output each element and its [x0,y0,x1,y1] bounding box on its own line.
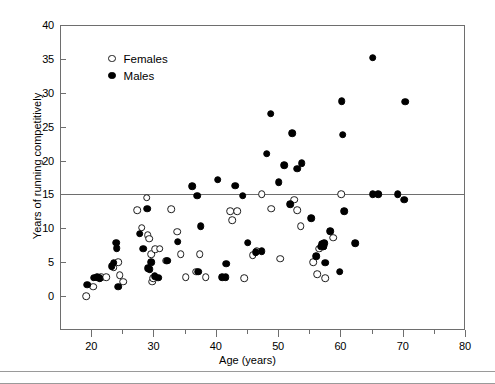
y-tick-35 [60,59,66,60]
x-tick-40 [216,330,217,337]
x-tick-minor-35 [185,330,186,334]
y-tick-0 [60,296,66,297]
y-tick-40 [60,25,66,26]
x-tick-80 [465,330,466,337]
x-tick-label-70: 70 [388,340,418,352]
legend: Females Males [108,50,168,84]
x-tick-50 [278,330,279,337]
y-tick-25 [60,127,66,128]
scatter-plot-figure: 0510152025303540 20304050607080 Females … [0,0,495,384]
x-tick-label-40: 40 [201,340,231,352]
y-tick-30 [60,93,66,94]
x-tick-label-30: 30 [138,340,168,352]
y-tick-label-40: 40 [28,19,54,31]
x-tick-60 [340,330,341,337]
x-tick-label-50: 50 [263,340,293,352]
x-tick-minor-75 [434,330,435,334]
x-tick-20 [91,330,92,337]
page-divider-rule-top [0,371,495,372]
x-tick-label-20: 20 [76,340,106,352]
legend-item-males: Males [108,67,168,84]
legend-label-females: Females [124,53,168,65]
filled-circle-icon [108,72,116,80]
x-axis-title: Age (years) [0,354,495,366]
x-tick-minor-55 [309,330,310,334]
x-tick-minor-65 [372,330,373,334]
x-tick-minor-25 [122,330,123,334]
y-tick-5 [60,262,66,263]
x-tick-minor-45 [247,330,248,334]
x-tick-30 [153,330,154,337]
y-tick-10 [60,228,66,229]
x-tick-label-60: 60 [325,340,355,352]
y-axis-title: Years of running competitively [31,51,43,281]
x-tick-label-80: 80 [450,340,480,352]
reference-line-15-years [60,194,465,195]
legend-label-males: Males [124,70,155,82]
y-tick-label-0: 0 [28,290,54,302]
open-circle-icon [108,55,116,63]
x-tick-70 [403,330,404,337]
y-tick-20 [60,161,66,162]
legend-item-females: Females [108,50,168,67]
